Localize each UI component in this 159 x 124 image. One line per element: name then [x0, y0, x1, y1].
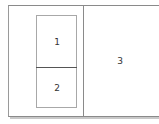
- pane-3-label: 3: [114, 56, 126, 66]
- left-stack-container: [36, 15, 77, 108]
- frame-shadow: [10, 117, 159, 119]
- vertical-divider[interactable]: [83, 5, 84, 117]
- pane-2-label: 2: [51, 83, 63, 93]
- horizontal-divider[interactable]: [36, 67, 77, 68]
- pane-1-label: 1: [51, 37, 63, 47]
